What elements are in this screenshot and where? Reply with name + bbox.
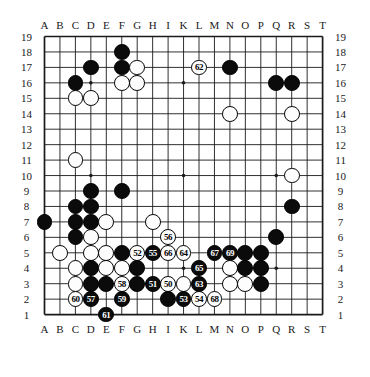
row-label-left-11: 11 bbox=[17, 154, 37, 166]
stone-move-68: 68 bbox=[207, 291, 223, 307]
column-label-top-M: M bbox=[206, 19, 222, 31]
row-label-right-17: 17 bbox=[331, 61, 351, 73]
stone-black bbox=[83, 260, 99, 276]
move-number-label: 58 bbox=[115, 277, 129, 291]
stone-black bbox=[68, 199, 84, 215]
column-label-bottom-N: N bbox=[222, 323, 238, 335]
stone-move-53: 53 bbox=[176, 291, 192, 307]
column-label-top-R: R bbox=[284, 19, 300, 31]
stone-black bbox=[253, 276, 269, 292]
move-number-label: 61 bbox=[99, 308, 113, 322]
stone-white bbox=[145, 214, 161, 230]
stone-move-50: 50 bbox=[160, 276, 176, 292]
stone-move-67: 67 bbox=[207, 245, 223, 261]
column-label-bottom-E: E bbox=[98, 323, 114, 335]
stone-white bbox=[114, 260, 130, 276]
column-label-bottom-D: D bbox=[83, 323, 99, 335]
move-number-label: 67 bbox=[208, 246, 222, 260]
column-label-top-I: I bbox=[160, 19, 176, 31]
stone-move-55: 55 bbox=[145, 245, 161, 261]
move-number-label: 52 bbox=[130, 246, 144, 260]
stone-black bbox=[83, 276, 99, 292]
row-label-right-10: 10 bbox=[331, 170, 351, 182]
row-label-left-3: 3 bbox=[17, 278, 37, 290]
column-label-top-D: D bbox=[83, 19, 99, 31]
row-label-left-10: 10 bbox=[17, 170, 37, 182]
stone-black bbox=[68, 75, 84, 91]
stone-white bbox=[98, 245, 114, 261]
stone-black bbox=[83, 183, 99, 199]
row-label-right-12: 12 bbox=[331, 139, 351, 151]
move-number-label: 65 bbox=[192, 261, 206, 275]
row-label-right-7: 7 bbox=[331, 216, 351, 228]
go-board-diagram: 6256525566646769655851506360575953546861… bbox=[0, 0, 370, 377]
column-label-bottom-H: H bbox=[145, 323, 161, 335]
move-number-label: 62 bbox=[192, 61, 206, 75]
row-label-left-16: 16 bbox=[17, 77, 37, 89]
column-label-bottom-B: B bbox=[52, 323, 68, 335]
move-number-label: 69 bbox=[223, 246, 237, 260]
column-label-bottom-I: I bbox=[160, 323, 176, 335]
column-label-bottom-K: K bbox=[176, 323, 192, 335]
stone-white bbox=[284, 106, 300, 122]
stone-white bbox=[222, 260, 238, 276]
stone-move-56: 56 bbox=[160, 229, 176, 245]
move-number-label: 54 bbox=[192, 292, 206, 306]
stone-move-60: 60 bbox=[68, 291, 84, 307]
column-label-top-A: A bbox=[37, 19, 53, 31]
row-label-left-13: 13 bbox=[17, 123, 37, 135]
row-label-left-19: 19 bbox=[17, 31, 37, 43]
stone-black bbox=[253, 245, 269, 261]
row-label-right-16: 16 bbox=[331, 77, 351, 89]
stone-move-57: 57 bbox=[83, 291, 99, 307]
stone-white bbox=[83, 245, 99, 261]
stone-white bbox=[114, 75, 130, 91]
stone-black bbox=[237, 260, 253, 276]
stone-black bbox=[68, 229, 84, 245]
row-label-left-6: 6 bbox=[17, 231, 37, 243]
move-number-label: 56 bbox=[161, 230, 175, 244]
stone-white bbox=[52, 245, 68, 261]
stone-white bbox=[129, 75, 145, 91]
stone-black bbox=[37, 214, 53, 230]
move-number-label: 53 bbox=[177, 292, 191, 306]
stone-black bbox=[268, 75, 284, 91]
stone-move-69: 69 bbox=[222, 245, 238, 261]
column-label-bottom-Q: Q bbox=[268, 323, 284, 335]
stone-white bbox=[284, 168, 300, 184]
stone-move-51: 51 bbox=[145, 276, 161, 292]
stone-move-52: 52 bbox=[129, 245, 145, 261]
row-label-left-15: 15 bbox=[17, 92, 37, 104]
stone-move-64: 64 bbox=[176, 245, 192, 261]
stone-black bbox=[114, 245, 130, 261]
stone-black bbox=[68, 214, 84, 230]
column-label-top-E: E bbox=[98, 19, 114, 31]
stone-move-54: 54 bbox=[191, 291, 207, 307]
stone-white bbox=[222, 106, 238, 122]
row-label-right-8: 8 bbox=[331, 200, 351, 212]
column-label-top-T: T bbox=[315, 19, 331, 31]
column-label-top-N: N bbox=[222, 19, 238, 31]
move-number-label: 60 bbox=[69, 292, 83, 306]
column-label-top-H: H bbox=[145, 19, 161, 31]
stone-black bbox=[83, 199, 99, 215]
row-label-right-19: 19 bbox=[331, 31, 351, 43]
stone-black bbox=[83, 214, 99, 230]
column-label-bottom-L: L bbox=[191, 323, 207, 335]
stone-black bbox=[268, 229, 284, 245]
row-label-right-4: 4 bbox=[331, 262, 351, 274]
stone-black bbox=[222, 60, 238, 76]
column-label-bottom-O: O bbox=[237, 323, 253, 335]
row-label-right-11: 11 bbox=[331, 154, 351, 166]
column-label-top-B: B bbox=[52, 19, 68, 31]
stone-white bbox=[98, 214, 114, 230]
column-label-bottom-M: M bbox=[206, 323, 222, 335]
stone-black bbox=[129, 260, 145, 276]
column-label-top-O: O bbox=[237, 19, 253, 31]
column-label-bottom-R: R bbox=[284, 323, 300, 335]
column-label-top-K: K bbox=[176, 19, 192, 31]
stone-white bbox=[222, 276, 238, 292]
stone-black bbox=[83, 60, 99, 76]
row-label-right-1: 1 bbox=[331, 309, 351, 321]
column-label-top-C: C bbox=[67, 19, 83, 31]
